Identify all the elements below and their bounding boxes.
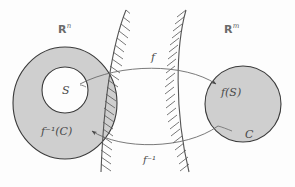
s-leader-line: [80, 85, 86, 87]
domain-space-symbol: R: [58, 23, 67, 36]
forward-map-label: f: [151, 52, 155, 63]
figure-canvas: Rn Rm S C f(S) f⁻¹(C) f f⁻¹: [0, 0, 295, 187]
domain-space-label: Rn: [58, 23, 71, 35]
set-c-label: C: [245, 129, 253, 140]
codomain-space-symbol: R: [224, 23, 233, 36]
set-s-label: S: [62, 85, 70, 96]
inverse-map-label: f⁻¹: [143, 155, 156, 165]
image-of-s-label: f(S): [221, 87, 241, 98]
preimage-of-c-label: f⁻¹(C): [41, 126, 72, 137]
left-region-annulus: [13, 47, 117, 159]
image-of-s-text: f(S): [221, 86, 241, 99]
domain-space-superscript: n: [67, 22, 72, 30]
inverse-map-text: f⁻¹: [143, 154, 156, 165]
right-boundary-curve: [165, 10, 189, 172]
codomain-space-label: Rm: [224, 23, 240, 35]
codomain-space-superscript: m: [233, 22, 240, 30]
preimage-of-c-text: f⁻¹(C): [41, 125, 72, 138]
right-region-disc: [205, 66, 281, 142]
